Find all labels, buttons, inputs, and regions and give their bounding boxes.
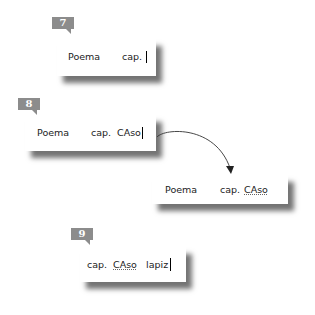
word-lapiz: lapiz: [146, 259, 168, 270]
word-cap: cap.: [87, 259, 107, 270]
step-8-result-text-box: Poema cap. CAso: [152, 175, 288, 204]
step-9-text-box: cap. CAso lapiz: [80, 247, 186, 282]
word-caso-underlined: CAso: [244, 184, 268, 195]
word-caso-underlined: CAso: [113, 259, 137, 270]
step-9-badge: 9: [71, 228, 93, 240]
text-cursor: [170, 258, 171, 271]
word-poema: Poema: [165, 184, 197, 195]
word-cap: cap.: [220, 184, 240, 195]
